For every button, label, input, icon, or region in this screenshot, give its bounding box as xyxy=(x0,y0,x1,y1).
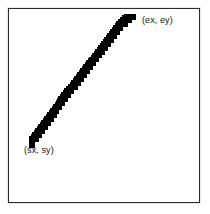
figure-frame xyxy=(8,8,200,203)
endpoint-label-end: (ex, ey) xyxy=(142,15,173,26)
rasterized-line-svg xyxy=(9,9,199,202)
rasterized-line-staircase xyxy=(29,14,136,148)
endpoint-label-start: (sx, sy) xyxy=(24,145,54,156)
line-canvas xyxy=(9,9,199,202)
diagram-root: (ex, ey) (sx, sy) xyxy=(0,0,210,214)
